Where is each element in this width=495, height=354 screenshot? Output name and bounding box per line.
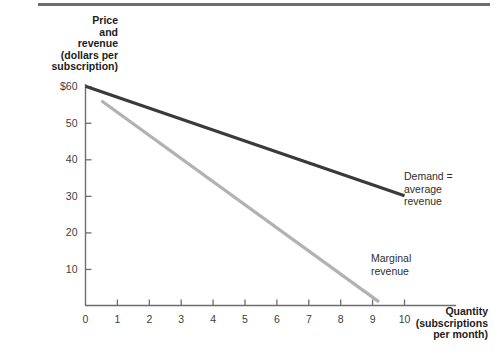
y-tick-label: 10 [42, 263, 78, 275]
y-tick-label: 20 [42, 226, 78, 238]
x-tick-label: 10 [399, 313, 411, 325]
x-tick-label: 9 [370, 313, 376, 325]
x-tick-label: 5 [242, 313, 248, 325]
demand-curve-label: Demand = average revenue [404, 170, 453, 208]
x-tick-label: 7 [306, 313, 312, 325]
series-lines [86, 86, 405, 302]
x-tick-marks [117, 300, 404, 306]
y-tick-label: $60 [42, 80, 78, 92]
x-tick-label: 6 [274, 313, 280, 325]
y-tick-marks [86, 87, 92, 270]
y-tick-label: 40 [42, 153, 78, 165]
series-line [86, 86, 405, 196]
x-tick-label: 8 [338, 313, 344, 325]
x-tick-label: 2 [146, 313, 152, 325]
x-tick-label: 0 [83, 313, 89, 325]
series-line [101, 101, 379, 302]
x-tick-label: 1 [114, 313, 120, 325]
y-tick-label: 30 [42, 190, 78, 202]
demand-marginal-revenue-chart: Price and revenue (dollars per subscript… [0, 0, 495, 354]
y-tick-label: 50 [42, 117, 78, 129]
x-tick-label: 3 [178, 313, 184, 325]
y-axis-title: Price and revenue (dollars per subscript… [6, 15, 118, 73]
marginal-revenue-curve-label: Marginal revenue [371, 252, 411, 277]
x-tick-label: 4 [210, 313, 216, 325]
